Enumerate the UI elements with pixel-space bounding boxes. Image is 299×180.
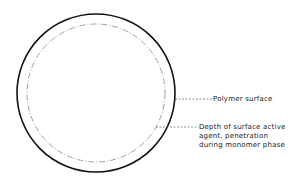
polymer-surface-label: Polymer surface <box>213 95 272 104</box>
penetration-depth-circle <box>27 24 165 162</box>
depth-label-line3: during monomer phase <box>199 141 285 150</box>
depth-label-line1: Depth of surface active <box>199 123 286 132</box>
depth-label-line2: agent, penetration <box>199 132 268 141</box>
polymer-surface-circle <box>17 14 175 172</box>
particle-diagram <box>0 0 299 180</box>
